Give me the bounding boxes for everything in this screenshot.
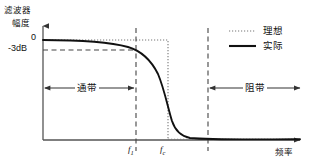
- x-tick-fc-subscript: c: [163, 149, 166, 156]
- y-axis-title-line1: 滤波器: [4, 6, 31, 15]
- legend-label-actual: 实际: [263, 41, 283, 51]
- y-tick-minus3db: -3dB: [8, 44, 27, 53]
- legend-label-ideal: 理想: [263, 26, 283, 36]
- x-tick-fc: fc: [160, 145, 165, 156]
- filter-response-chart: 滤波器 幅度 0 -3dB f1 fc 频率 通带 阻带 理想 实际: [0, 0, 312, 167]
- ideal-response-curve: [43, 40, 168, 140]
- x-tick-f1: f1: [128, 145, 134, 156]
- y-axis-title-line2: 幅度: [12, 19, 30, 28]
- y-tick-0db: 0: [31, 33, 36, 42]
- x-axis-title: 频率: [275, 148, 293, 157]
- stopband-label: 阻带: [243, 83, 267, 93]
- x-tick-f1-subscript: 1: [131, 149, 134, 156]
- passband-label: 通带: [75, 83, 99, 93]
